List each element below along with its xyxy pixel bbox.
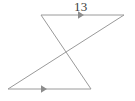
arrowhead-icon-bottom — [41, 85, 47, 92]
figure-canvas — [0, 0, 135, 101]
segment-right-transversal — [8, 15, 124, 89]
geometry-figure: 13 — [0, 0, 135, 101]
length-label-top: 13 — [74, 0, 87, 13]
